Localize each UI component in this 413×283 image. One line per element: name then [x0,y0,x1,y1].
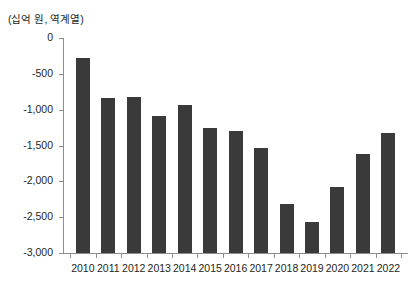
x-axis-tick [223,253,224,258]
x-axis-tick [401,253,402,258]
bar [330,187,344,253]
y-axis-tick-label: -500 [32,67,53,80]
bar [127,97,141,253]
bar [381,133,395,253]
x-axis-tick [197,253,198,258]
y-axis-tick: -1,000 [59,110,64,111]
bar [203,128,217,253]
y-axis-tick-label: -1,000 [23,103,53,116]
x-axis-tick [96,253,97,258]
y-axis-tick: -3,000 [59,253,64,254]
y-axis-tick: -500 [59,74,64,75]
bar [254,148,268,253]
bar [76,58,90,253]
y-axis-tick: -2,500 [59,217,64,218]
x-axis-label: 2022 [371,262,405,275]
x-axis-tick [299,253,300,258]
bar [356,154,370,253]
y-axis-tick: -1,500 [59,146,64,147]
y-axis-unit-label: (십억 원, 역계열) [8,13,84,26]
x-axis-tick [350,253,351,258]
y-axis-tick-label: -2,500 [23,210,53,223]
y-axis-tick-label: -2,000 [23,174,53,187]
x-axis-tick [172,253,173,258]
y-axis-tick-label: -3,000 [23,246,53,259]
bar [152,116,166,253]
bar [305,222,319,253]
bar [229,131,243,253]
x-axis-tick [147,253,148,258]
bar [280,204,294,253]
x-axis-tick [248,253,249,258]
x-axis-tick [121,253,122,258]
x-axis-tick [325,253,326,258]
clipped-header-text [8,0,104,5]
x-axis-tick [70,253,71,258]
y-axis-tick-label: -1,500 [23,139,53,152]
x-axis-line [63,253,408,254]
y-axis-tick: 0 [59,38,64,39]
bar [178,105,192,253]
x-axis-tick [274,253,275,258]
y-axis-tick-label: 0 [47,31,53,44]
y-axis-tick: -2,000 [59,181,64,182]
x-axis-tick [376,253,377,258]
chart-figure: (십억 원, 역계열) 0-500-1,000-1,500-2,000-2,50… [0,0,413,283]
plot-area: 0-500-1,000-1,500-2,000-2,500-3,000 2010… [63,38,408,253]
bar [101,98,115,253]
